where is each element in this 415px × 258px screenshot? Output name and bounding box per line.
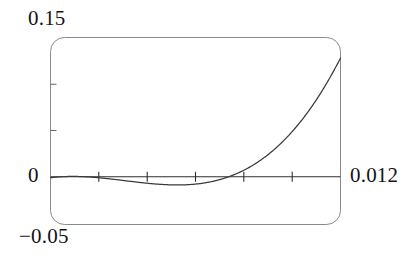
y-min-label: −0.05	[19, 226, 69, 247]
plot-figure: 0.15 −0.05 0 0.012	[0, 0, 415, 258]
plot-frame	[51, 38, 341, 225]
plot-canvas	[0, 0, 415, 258]
y-axis-ticks	[51, 84, 57, 130]
data-curve	[51, 58, 341, 185]
y-max-label: 0.15	[28, 8, 66, 29]
x-max-label: 0.012	[350, 165, 398, 186]
origin-label: 0	[28, 165, 39, 186]
